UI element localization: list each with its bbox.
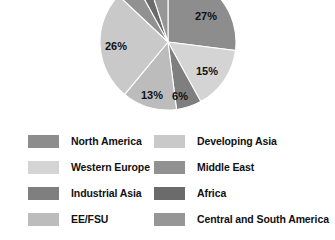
legend-swatch-icon xyxy=(28,213,59,226)
legend-item[interactable]: Central and South America xyxy=(154,206,335,232)
legend-item-label: EE/FSU xyxy=(71,213,108,225)
legend-item-label: Developing Asia xyxy=(197,135,277,147)
legend-item[interactable]: North America xyxy=(28,128,150,154)
legend-swatch-icon xyxy=(28,161,59,174)
legend-swatch-icon xyxy=(154,213,185,226)
legend-item-label: Africa xyxy=(197,187,226,199)
legend-swatch-icon xyxy=(154,135,185,148)
legend-swatch-icon xyxy=(154,187,185,200)
legend-item[interactable]: Western Europe xyxy=(28,154,150,180)
legend-swatch-icon xyxy=(28,135,59,148)
legend-column-right: Developing Asia Middle East Africa Centr… xyxy=(150,128,335,154)
legend-item[interactable]: Industrial Asia xyxy=(28,180,150,206)
legend-swatch-icon xyxy=(154,161,185,174)
legend-item-label: North America xyxy=(71,135,142,147)
legend-item-label: Middle East xyxy=(197,161,254,173)
pie-slice-label: 26% xyxy=(105,40,127,52)
legend-item[interactable]: Developing Asia xyxy=(154,128,335,154)
legend-item-label: Industrial Asia xyxy=(71,187,141,199)
legend-swatch-icon xyxy=(28,187,59,200)
legend-item[interactable]: Middle East xyxy=(154,154,335,180)
legend-column-left: North America Western Europe Industrial … xyxy=(0,128,150,154)
pie-chart: 27%15%6%13%26% xyxy=(0,0,335,122)
legend-item-label: Western Europe xyxy=(71,161,150,173)
legend-item[interactable]: EE/FSU xyxy=(28,206,150,232)
pie-slice-label: 6% xyxy=(172,90,188,102)
pie-slice-label: 15% xyxy=(196,65,218,77)
pie-slice-label: 13% xyxy=(141,89,163,101)
legend-item-label: Central and South America xyxy=(197,213,329,225)
chart-legend: North America Western Europe Industrial … xyxy=(0,128,335,240)
pie-chart-area: 27%15%6%13%26% xyxy=(0,0,335,122)
legend-item[interactable]: Africa xyxy=(154,180,335,206)
pie-slice-label: 27% xyxy=(195,10,217,22)
